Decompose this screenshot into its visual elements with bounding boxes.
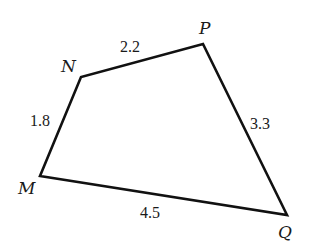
edge-length-np: 2.2 [120,38,140,55]
vertex-label-m: M [17,178,36,198]
edge-length-pq: 3.3 [250,115,270,132]
vertex-label-q: Q [278,222,292,242]
vertex-label-n: N [60,56,77,76]
edge-length-qm: 4.5 [140,204,160,221]
quadrilateral-figure: M N P Q 1.8 2.2 3.3 4.5 [0,0,311,252]
vertex-label-p: P [198,18,211,38]
edge-length-mn: 1.8 [30,112,50,129]
